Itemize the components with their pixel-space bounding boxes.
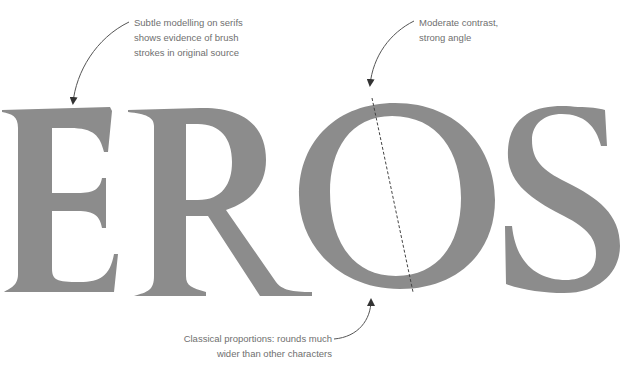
arrow-proportions — [334, 300, 371, 339]
annotation-line: wider than other characters — [172, 346, 332, 361]
letter-r — [128, 108, 312, 296]
eros-lettering — [0, 0, 638, 377]
letter-s — [505, 106, 620, 293]
annotation-proportions: Classical proportions: rounds much wider… — [172, 331, 332, 361]
annotation-line: strokes in original source — [134, 45, 243, 60]
annotation-line: Subtle modelling on serifs — [134, 15, 243, 30]
annotation-line: Classical proportions: rounds much — [172, 331, 332, 346]
annotation-contrast: Moderate contrast, strong angle — [419, 15, 498, 45]
annotation-line: strong angle — [419, 30, 498, 45]
arrow-serifs — [73, 22, 129, 103]
letter-e — [2, 107, 118, 292]
annotation-line: shows evidence of brush — [134, 30, 243, 45]
annotation-serifs: Subtle modelling on serifs shows evidenc… — [134, 15, 243, 60]
annotation-line: Moderate contrast, — [419, 15, 498, 30]
arrow-contrast — [370, 21, 414, 85]
stress-axis-line — [372, 98, 413, 292]
letter-o — [299, 103, 495, 289]
